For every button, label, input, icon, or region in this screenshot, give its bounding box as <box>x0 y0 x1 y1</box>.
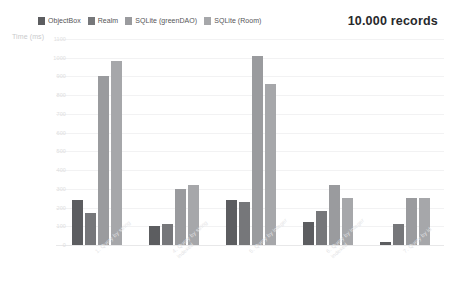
bar[interactable] <box>85 213 96 245</box>
bar-group <box>135 39 212 245</box>
legend-item-label: SQLite (greenDAO) <box>135 16 197 25</box>
bar-group <box>290 39 367 245</box>
legend-swatch-icon <box>88 17 95 25</box>
legend-item-label: ObjectBox <box>48 16 81 25</box>
x-axis-labels: 1. Query by string4. Query by stringinde… <box>44 245 444 293</box>
legend-swatch-icon <box>38 17 45 25</box>
bar[interactable] <box>162 224 173 245</box>
bar[interactable] <box>303 222 314 245</box>
bar[interactable] <box>239 202 250 245</box>
bar-group <box>58 39 135 245</box>
bar[interactable] <box>72 200 83 245</box>
bar[interactable] <box>149 226 160 245</box>
chart-card: ObjectBoxRealmSQLite (greenDAO)SQLite (R… <box>0 0 456 297</box>
bar[interactable] <box>265 84 276 245</box>
legend-item[interactable]: ObjectBox <box>38 16 81 25</box>
y-axis-title: Time (ms) <box>12 33 44 40</box>
bar[interactable] <box>252 56 263 245</box>
legend-item[interactable]: Realm <box>88 16 118 25</box>
legend-item[interactable]: SQLite (Room) <box>204 16 261 25</box>
bar[interactable] <box>316 211 327 245</box>
x-axis-label-cell: 4. Query by stringindexed <box>135 245 212 293</box>
records-title: 10.000 records <box>348 14 438 28</box>
legend-swatch-icon <box>125 17 132 25</box>
chart-header: ObjectBoxRealmSQLite (greenDAO)SQLite (R… <box>0 14 456 34</box>
bars-layer <box>44 39 444 245</box>
legend-item-label: SQLite (Room) <box>214 16 261 25</box>
x-axis-label-cell: 5. Query by integer <box>212 245 289 293</box>
bar[interactable] <box>393 224 404 245</box>
legend-item[interactable]: SQLite (greenDAO) <box>125 16 197 25</box>
chart-legend: ObjectBoxRealmSQLite (greenDAO)SQLite (R… <box>38 16 262 25</box>
x-axis-label-cell: 6. Query by integerindexed <box>290 245 367 293</box>
x-axis-label-cell: 1. Query by string <box>58 245 135 293</box>
legend-swatch-icon <box>204 17 211 25</box>
bar[interactable] <box>98 76 109 245</box>
bar-group <box>212 39 289 245</box>
bar[interactable] <box>226 200 237 245</box>
x-axis-label-cell: 7. Query by id <box>367 245 444 293</box>
plot-area: 010020030040050060070080090010001100 <box>44 39 444 245</box>
legend-item-label: Realm <box>98 16 118 25</box>
bar-group <box>367 39 444 245</box>
bar[interactable] <box>111 61 122 245</box>
